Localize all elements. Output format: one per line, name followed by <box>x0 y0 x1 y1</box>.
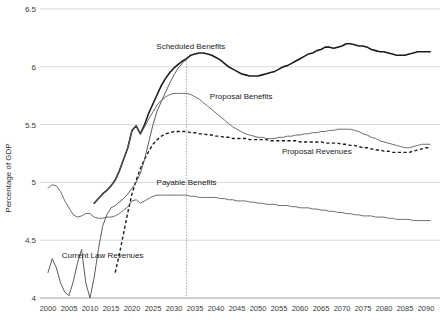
x-tick-label-2080: 2080 <box>376 304 393 313</box>
y-tick-label-6: 6 <box>32 63 37 72</box>
scheduled-benefits-label: Scheduled Benefits <box>156 42 225 51</box>
x-tick-label-2085: 2085 <box>397 304 414 313</box>
x-axis-ticks-group: 2000200520102015202020252030203520402045… <box>40 304 435 313</box>
y-axis-ticks-group: 44.555.566.5 <box>25 5 37 303</box>
proposal-benefits-label: Proposal Benefits <box>210 92 273 101</box>
x-tick-label-2000: 2000 <box>40 304 57 313</box>
y-axis-title: Percentage of GDP <box>4 143 13 212</box>
y-tick-label-4: 4 <box>32 294 37 303</box>
chart-container: 44.555.566.5 200020052010201520202025203… <box>0 0 443 325</box>
annotations-group: Scheduled BenefitsProposal BenefitsPropo… <box>62 42 352 259</box>
gdp-projection-line-chart: 44.555.566.5 200020052010201520202025203… <box>0 0 443 325</box>
x-tick-label-2035: 2035 <box>187 304 204 313</box>
x-tick-label-2005: 2005 <box>61 304 78 313</box>
y-tick-label-6.5: 6.5 <box>25 5 37 14</box>
x-tick-label-2010: 2010 <box>82 304 99 313</box>
x-tick-label-2070: 2070 <box>334 304 351 313</box>
series-line-proposal-benefits <box>94 93 430 203</box>
x-tick-label-2020: 2020 <box>124 304 141 313</box>
series-line-scheduled-benefits <box>94 44 430 204</box>
x-tick-label-2090: 2090 <box>418 304 435 313</box>
y-tick-label-5: 5 <box>32 178 37 187</box>
y-tick-label-4.5: 4.5 <box>25 236 37 245</box>
current-law-revenues-label: Current Law Revenues <box>62 251 144 260</box>
x-tick-label-2040: 2040 <box>208 304 225 313</box>
y-tick-label-5.5: 5.5 <box>25 121 37 130</box>
x-tick-label-2045: 2045 <box>229 304 246 313</box>
x-tick-label-2075: 2075 <box>355 304 372 313</box>
x-tick-label-2015: 2015 <box>103 304 120 313</box>
x-tick-label-2060: 2060 <box>292 304 309 313</box>
series-group <box>48 44 430 298</box>
y-axis-title-group: Percentage of GDP <box>4 143 13 212</box>
series-line-payable-benefits <box>48 185 430 221</box>
x-tick-label-2030: 2030 <box>166 304 183 313</box>
x-tick-label-2050: 2050 <box>250 304 267 313</box>
series-line-proposal-revenues <box>115 132 430 273</box>
x-tick-label-2025: 2025 <box>145 304 162 313</box>
x-tick-label-2065: 2065 <box>313 304 330 313</box>
proposal-revenues-label: Proposal Revenues <box>282 147 352 156</box>
x-tick-label-2055: 2055 <box>271 304 288 313</box>
payable-benefits-label: Payable Benefits <box>157 178 217 187</box>
